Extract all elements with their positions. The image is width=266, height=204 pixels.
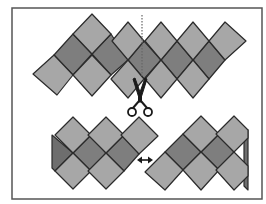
diagram-canvas: [0, 0, 266, 204]
bottom-left-strip-piece: [52, 117, 158, 189]
bottom-right-strip-piece: [145, 116, 248, 190]
top-strip-piece: [33, 14, 246, 98]
cut-strip-diagram: [0, 0, 266, 204]
double-arrow-icon: [137, 157, 153, 164]
